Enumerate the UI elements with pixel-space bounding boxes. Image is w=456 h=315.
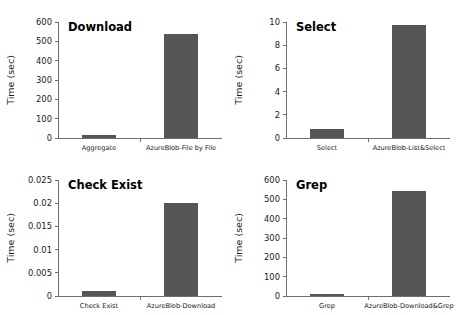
y-tick-label-download-3: 300	[36, 75, 52, 85]
bar-download-1	[164, 34, 198, 138]
bar-select-0	[310, 129, 344, 138]
chart-title-grep: Grep	[296, 178, 327, 192]
chart-title-select: Select	[296, 20, 337, 34]
chart-panel-select: Time (sec)0246810SelectAzureBlob-List&Se…	[228, 0, 456, 157]
y-tick-label-download-1: 100	[36, 114, 52, 124]
y-tick-label-download-0: 0	[47, 133, 52, 143]
chart-panel-download: Time (sec)0100200300400500600AggregateAz…	[0, 0, 228, 157]
chart-svg-select: Time (sec)0246810SelectAzureBlob-List&Se…	[228, 0, 456, 157]
y-tick-label-grep-1: 100	[264, 272, 280, 282]
y-axis-label-download: Time (sec)	[5, 55, 16, 106]
y-tick-label-select-4: 8	[275, 40, 280, 50]
bar-check-exist-0	[82, 291, 116, 296]
y-tick-label-grep-3: 300	[264, 233, 280, 243]
x-tick-label-select-1: AzureBlob-List&Select	[373, 144, 446, 152]
y-tick-label-select-1: 2	[275, 110, 280, 120]
y-tick-label-download-5: 500	[36, 36, 52, 46]
chart-title-download: Download	[68, 20, 132, 34]
y-tick-label-grep-6: 600	[264, 175, 280, 185]
bar-download-0	[82, 135, 116, 138]
x-tick-label-download-0: Aggregate	[82, 144, 116, 152]
x-tick-label-select-0: Select	[317, 144, 338, 152]
y-tick-label-download-2: 200	[36, 94, 52, 104]
y-tick-label-check-exist-4: 0.02	[33, 198, 52, 208]
x-tick-label-check-exist-1: AzureBlob-Download	[147, 302, 216, 310]
y-tick-label-check-exist-2: 0.01	[33, 245, 52, 255]
y-tick-label-select-0: 0	[275, 133, 280, 143]
y-tick-label-check-exist-1: 0.005	[28, 268, 52, 278]
x-tick-label-check-exist-0: Check Exist	[80, 302, 119, 310]
y-tick-label-download-4: 400	[36, 56, 52, 66]
chart-panel-grep: Time (sec)0100200300400500600GrepAzureBl…	[228, 158, 456, 315]
x-tick-label-grep-0: Grep	[319, 302, 335, 310]
y-tick-label-check-exist-3: 0.015	[28, 221, 52, 231]
y-tick-label-download-6: 600	[36, 17, 52, 27]
chart-svg-check-exist: Time (sec)00.0050.010.0150.020.025Check …	[0, 158, 228, 315]
y-axis-label-grep: Time (sec)	[233, 213, 244, 264]
y-tick-label-select-2: 4	[275, 87, 280, 97]
bar-select-1	[392, 25, 426, 138]
bar-check-exist-1	[164, 203, 198, 296]
chart-panel-check-exist: Time (sec)00.0050.010.0150.020.025Check …	[0, 158, 228, 315]
chart-svg-download: Time (sec)0100200300400500600AggregateAz…	[0, 0, 228, 157]
chart-svg-grep: Time (sec)0100200300400500600GrepAzureBl…	[228, 158, 456, 315]
y-tick-label-select-5: 10	[269, 17, 280, 27]
y-tick-label-grep-0: 0	[275, 291, 280, 301]
y-axis-label-select: Time (sec)	[233, 55, 244, 106]
x-tick-label-grep-1: AzureBlob-Download&Grep	[364, 302, 454, 310]
chart-title-check-exist: Check Exist	[68, 178, 143, 192]
y-tick-label-grep-5: 500	[264, 194, 280, 204]
y-axis-label-check-exist: Time (sec)	[5, 213, 16, 264]
figure-canvas: Time (sec)0100200300400500600AggregateAz…	[0, 0, 456, 315]
y-tick-label-grep-4: 400	[264, 214, 280, 224]
y-tick-label-grep-2: 200	[264, 252, 280, 262]
y-tick-label-check-exist-5: 0.025	[28, 175, 52, 185]
y-tick-label-check-exist-0: 0	[47, 291, 52, 301]
bar-grep-1	[392, 191, 426, 296]
x-tick-label-download-1: AzureBlob-File by File	[146, 144, 216, 152]
y-tick-label-select-3: 6	[275, 63, 280, 73]
bar-grep-0	[310, 294, 344, 296]
